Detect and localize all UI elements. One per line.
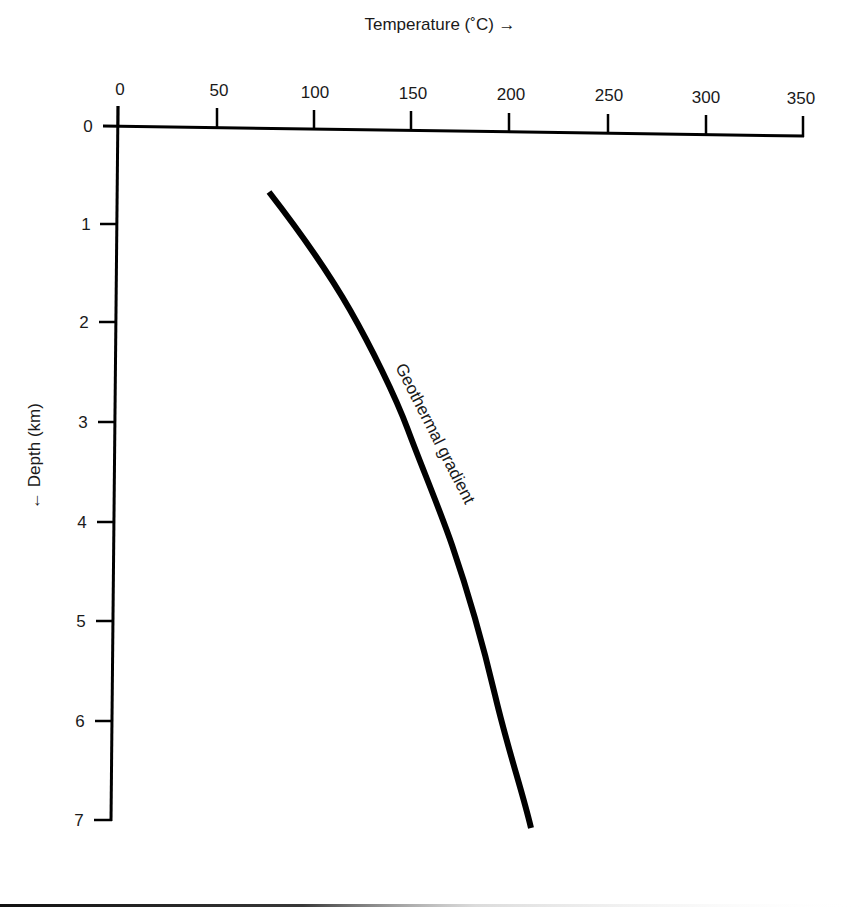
x-tick-label: 200 <box>497 85 525 104</box>
y-axis-line <box>111 106 118 821</box>
y-tick-label: 4 <box>77 513 86 532</box>
x-tick-label: 150 <box>399 84 427 103</box>
y-axis: 0 1 2 3 4 5 6 7 <box>74 106 118 830</box>
x-axis-title: Temperature (˚C) → <box>364 15 515 34</box>
y-tick-label: 3 <box>78 413 87 432</box>
x-tick-label: 0 <box>115 80 124 99</box>
geothermal-gradient-curve <box>269 192 531 828</box>
y-tick-label: 6 <box>75 712 84 731</box>
x-axis-line <box>103 126 804 136</box>
y-tick-label: 1 <box>81 215 90 234</box>
geothermal-gradient-chart: Temperature (˚C) → 0 50 100 150 200 250 … <box>0 0 865 910</box>
y-axis-title: ← Depth (km) <box>25 403 44 509</box>
y-tick-label: 2 <box>79 313 88 332</box>
y-tick-label: 7 <box>74 811 83 830</box>
y-tick-label: 0 <box>83 117 92 136</box>
x-tick-label: 50 <box>210 81 229 100</box>
x-tick-label: 100 <box>301 83 329 102</box>
x-tick-label: 250 <box>595 86 623 105</box>
x-axis: 0 50 100 150 200 250 300 350 <box>103 80 815 137</box>
x-tick-label: 300 <box>692 88 720 107</box>
y-tick-label: 5 <box>76 612 85 631</box>
page-bottom-rule <box>0 904 865 907</box>
x-tick-label: 350 <box>787 89 815 108</box>
geothermal-gradient-label: Geothermal gradient <box>391 360 478 507</box>
